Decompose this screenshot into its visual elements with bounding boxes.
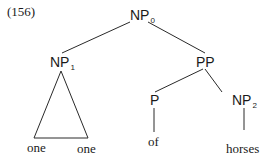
example-number: (156) [7, 5, 35, 19]
node-np2-cat: NP [232, 92, 251, 108]
node-p-cat: P [150, 92, 159, 108]
node-np2: NP2 [232, 93, 257, 110]
edge-pp-p [155, 69, 203, 92]
node-np1-cat: NP [50, 54, 69, 70]
leaf-horses: horses [226, 142, 259, 156]
node-pp-cat: PP [196, 54, 215, 70]
edge-pp-np2 [205, 69, 222, 92]
node-p: P [150, 93, 159, 107]
node-np1: NP1 [50, 55, 75, 72]
node-pp: PP [196, 55, 215, 69]
edge-np0-pp [148, 22, 205, 53]
triangle-np1 [34, 71, 88, 138]
leaf-of: of [148, 135, 159, 149]
node-np0-cat: NP [130, 7, 149, 23]
leaf-one-right: one [77, 142, 96, 156]
node-np0-sub: 0 [150, 16, 154, 25]
node-np0: NP0 [130, 8, 155, 25]
node-np2-sub: 2 [252, 101, 256, 110]
node-np1-sub: 1 [70, 63, 74, 72]
leaf-one-left: one [27, 141, 46, 155]
edge-np0-np1 [62, 22, 130, 53]
